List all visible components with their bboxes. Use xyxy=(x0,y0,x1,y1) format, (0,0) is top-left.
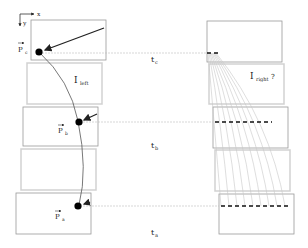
x-axis-label: x xyxy=(37,10,41,17)
label-i-left: I left xyxy=(74,75,88,86)
label-p-a: P a xyxy=(55,211,65,222)
label-i-right: I right ? xyxy=(250,71,275,83)
svg-text:P: P xyxy=(55,213,60,221)
svg-text:left: left xyxy=(80,80,88,86)
svg-text:P: P xyxy=(18,46,23,54)
motion-arrow-a xyxy=(84,202,90,204)
point-a xyxy=(74,202,81,209)
svg-text:c: c xyxy=(155,59,158,65)
svg-text:b: b xyxy=(65,131,68,136)
svg-text:a: a xyxy=(155,232,158,238)
time-label-c: t c xyxy=(151,55,158,65)
frame-right-b xyxy=(213,107,288,148)
frame-left-intermediate-2 xyxy=(21,149,96,190)
svg-text:P: P xyxy=(58,127,63,135)
frame-left-a xyxy=(16,193,91,234)
diagram-canvas: x y P c P xyxy=(0,0,308,248)
label-p-c: P c xyxy=(18,43,28,55)
svg-text:?: ? xyxy=(271,73,275,81)
label-p-b: P b xyxy=(58,125,68,136)
point-c xyxy=(35,48,42,55)
time-label-b: t b xyxy=(151,141,158,151)
svg-text:c: c xyxy=(25,50,28,55)
frame-left-c xyxy=(31,20,106,60)
frame-right-intermediate-2 xyxy=(215,150,290,191)
svg-text:I: I xyxy=(74,75,78,85)
motion-arrow-b xyxy=(84,114,97,120)
svg-text:b: b xyxy=(155,145,158,151)
svg-text:a: a xyxy=(62,217,65,222)
time-label-a: t a xyxy=(151,228,158,238)
svg-text:I: I xyxy=(250,71,254,81)
y-axis-label: y xyxy=(22,19,27,27)
frame-right-a xyxy=(219,194,294,234)
point-b xyxy=(75,118,82,125)
motion-arrow-c xyxy=(45,28,104,50)
svg-text:right: right xyxy=(256,76,268,83)
